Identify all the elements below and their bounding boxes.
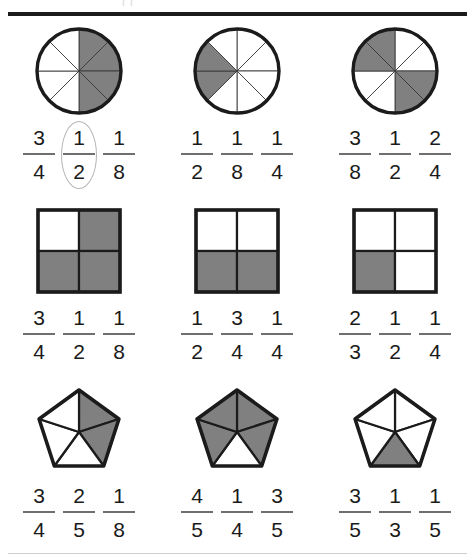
fraction-denominator: 4: [415, 340, 455, 364]
fraction-option[interactable]: 35: [257, 484, 297, 542]
fraction-numerator: 1: [177, 126, 217, 150]
fraction-numerator: 3: [335, 484, 375, 508]
fraction-option[interactable]: 12: [375, 126, 415, 184]
fraction-numerator: 1: [177, 306, 217, 330]
fraction-denominator: 5: [257, 518, 297, 542]
fraction-choice-group: 121814: [158, 126, 316, 198]
pentagon-fifths-two-shaded[interactable]: [0, 379, 158, 489]
square-quarters-three-shaded[interactable]: [0, 201, 158, 311]
bottom-divider-rule: [8, 553, 467, 554]
fraction-numerator: 1: [375, 126, 415, 150]
circle-eighths-alternating-shaded[interactable]: [316, 21, 474, 131]
fraction-denominator: 2: [177, 340, 217, 364]
circle-eighths-quarter-shaded[interactable]: [158, 21, 316, 131]
fraction-bar: [379, 511, 411, 513]
fraction-bar: [419, 511, 451, 513]
fraction-choice-group: 451435: [158, 484, 316, 556]
fraction-numerator: 3: [19, 484, 59, 508]
fraction-option[interactable]: 12: [177, 126, 217, 184]
fraction-option[interactable]: 18: [217, 126, 257, 184]
fraction-option[interactable]: 12: [59, 306, 99, 364]
fraction-bar: [103, 333, 135, 335]
fraction-option[interactable]: 14: [415, 306, 455, 364]
fraction-option[interactable]: 18: [99, 484, 139, 542]
fraction-option[interactable]: 13: [375, 484, 415, 542]
fraction-numerator: 1: [375, 306, 415, 330]
fraction-bar: [261, 153, 293, 155]
fraction-denominator: 4: [415, 160, 455, 184]
fraction-numerator: 1: [99, 126, 139, 150]
fraction-option[interactable]: 25: [59, 484, 99, 542]
fraction-denominator: 4: [257, 160, 297, 184]
fraction-numerator: 3: [19, 306, 59, 330]
fraction-option[interactable]: 34: [19, 306, 59, 364]
fraction-bar: [339, 153, 371, 155]
fraction-bar: [103, 153, 135, 155]
fraction-option[interactable]: 18: [99, 126, 139, 184]
fraction-choice-group: 341218: [0, 126, 158, 198]
fraction-option[interactable]: 24: [415, 126, 455, 184]
fraction-bar: [419, 153, 451, 155]
shape-row-square: [0, 201, 475, 311]
worksheet-header-strip: | |: [0, 0, 475, 10]
fraction-option[interactable]: 12: [177, 306, 217, 364]
fraction-bar: [339, 333, 371, 335]
worksheet-body: 3412181218143812243412181234142312143425…: [0, 16, 475, 558]
fraction-bar: [221, 333, 253, 335]
fraction-bar: [103, 511, 135, 513]
fraction-option[interactable]: 35: [335, 484, 375, 542]
fraction-option[interactable]: 34: [217, 306, 257, 364]
fraction-bar: [181, 333, 213, 335]
fraction-option[interactable]: 18: [99, 306, 139, 364]
fraction-option[interactable]: 34: [19, 484, 59, 542]
fraction-denominator: 3: [375, 518, 415, 542]
fraction-denominator: 4: [217, 340, 257, 364]
pentagon-fifths-one-shaded[interactable]: [316, 379, 474, 489]
fraction-option[interactable]: 23: [335, 306, 375, 364]
fraction-numerator: 1: [375, 484, 415, 508]
fraction-denominator: 4: [217, 518, 257, 542]
fraction-numerator: 1: [415, 484, 455, 508]
fraction-bar: [181, 511, 213, 513]
square-quarters-bottom-half-shaded[interactable]: [158, 201, 316, 311]
pentagon-fifths-four-shaded[interactable]: [158, 379, 316, 489]
fraction-denominator: 5: [177, 518, 217, 542]
fraction-option[interactable]: 14: [257, 306, 297, 364]
fraction-denominator: 4: [257, 340, 297, 364]
fraction-numerator: 1: [99, 484, 139, 508]
fraction-option[interactable]: 14: [217, 484, 257, 542]
fraction-choice-group: 381224: [316, 126, 474, 198]
fraction-denominator: 2: [375, 340, 415, 364]
fraction-row-1: 341218121814381224: [0, 126, 475, 198]
fraction-numerator: 1: [217, 484, 257, 508]
fraction-option[interactable]: 38: [335, 126, 375, 184]
circle-eighths-half-shaded[interactable]: [0, 21, 158, 131]
fraction-denominator: 2: [177, 160, 217, 184]
fraction-denominator: 8: [217, 160, 257, 184]
fraction-bar: [63, 153, 95, 155]
fraction-bar: [63, 511, 95, 513]
fraction-option[interactable]: 12: [375, 306, 415, 364]
fraction-bar: [181, 153, 213, 155]
fraction-numerator: 2: [59, 484, 99, 508]
fraction-choice-group: 231214: [316, 306, 474, 378]
fraction-bar: [63, 333, 95, 335]
fraction-numerator: 3: [19, 126, 59, 150]
fraction-denominator: 8: [335, 160, 375, 184]
fraction-option[interactable]: 15: [415, 484, 455, 542]
fraction-numerator: 3: [335, 126, 375, 150]
fraction-bar: [379, 333, 411, 335]
fraction-numerator: 2: [415, 126, 455, 150]
fraction-bar: [419, 333, 451, 335]
fraction-option[interactable]: 45: [177, 484, 217, 542]
fraction-choice-group: 123414: [158, 306, 316, 378]
fraction-numerator: 1: [99, 306, 139, 330]
worksheet-header-text: | |: [122, 0, 134, 6]
square-quarters-one-shaded[interactable]: [316, 201, 474, 311]
fraction-denominator: 8: [99, 518, 139, 542]
fraction-numerator: 1: [415, 306, 455, 330]
fraction-option[interactable]: 14: [257, 126, 297, 184]
fraction-option[interactable]: 12: [59, 126, 99, 184]
fraction-option[interactable]: 34: [19, 126, 59, 184]
fraction-numerator: 3: [217, 306, 257, 330]
